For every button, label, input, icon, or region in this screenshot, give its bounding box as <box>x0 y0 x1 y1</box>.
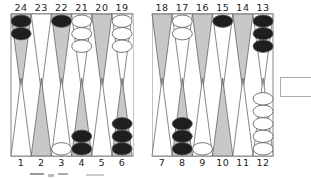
white-checker[interactable] <box>253 105 273 117</box>
black-checker[interactable] <box>253 28 273 40</box>
black-checker[interactable] <box>172 143 192 155</box>
black-checker[interactable] <box>172 118 192 130</box>
white-checker[interactable] <box>172 28 192 40</box>
status-text-blurred <box>28 170 128 179</box>
black-checker[interactable] <box>11 28 31 40</box>
point-label-3: 3 <box>52 158 72 168</box>
black-checker[interactable] <box>11 15 31 27</box>
black-checker[interactable] <box>253 15 273 27</box>
black-checker[interactable] <box>52 15 72 27</box>
doubling-cube-box[interactable] <box>280 77 311 97</box>
white-checker[interactable] <box>253 130 273 142</box>
white-checker[interactable] <box>193 143 213 155</box>
point-label-21: 21 <box>72 3 92 13</box>
point-label-19: 19 <box>112 3 132 13</box>
white-checker[interactable] <box>253 93 273 105</box>
point-label-12: 12 <box>253 158 273 168</box>
black-checker[interactable] <box>112 130 132 142</box>
black-checker[interactable] <box>213 15 233 27</box>
white-checker[interactable] <box>112 40 132 52</box>
white-checker[interactable] <box>52 143 72 155</box>
white-checker[interactable] <box>253 118 273 130</box>
point-label-9: 9 <box>193 158 213 168</box>
point-label-17: 17 <box>172 3 192 13</box>
black-checker[interactable] <box>112 143 132 155</box>
point-label-20: 20 <box>92 3 112 13</box>
white-checker[interactable] <box>112 15 132 27</box>
backgammon-board <box>0 0 311 179</box>
point-label-18: 18 <box>152 3 172 13</box>
point-label-1: 1 <box>11 158 31 168</box>
point-label-16: 16 <box>193 3 213 13</box>
point-label-7: 7 <box>152 158 172 168</box>
black-checker[interactable] <box>112 118 132 130</box>
white-checker[interactable] <box>253 143 273 155</box>
bar[interactable] <box>134 14 153 156</box>
point-label-23: 23 <box>31 3 51 13</box>
point-label-8: 8 <box>172 158 192 168</box>
black-checker[interactable] <box>72 130 92 142</box>
point-label-11: 11 <box>233 158 253 168</box>
point-label-14: 14 <box>233 3 253 13</box>
white-checker[interactable] <box>112 28 132 40</box>
point-label-13: 13 <box>253 3 273 13</box>
black-checker[interactable] <box>172 130 192 142</box>
point-label-2: 2 <box>31 158 51 168</box>
point-label-22: 22 <box>52 3 72 13</box>
point-label-4: 4 <box>72 158 92 168</box>
white-checker[interactable] <box>72 40 92 52</box>
board-frame <box>11 14 273 156</box>
white-checker[interactable] <box>172 15 192 27</box>
point-label-15: 15 <box>213 3 233 13</box>
white-checker[interactable] <box>72 28 92 40</box>
point-label-5: 5 <box>92 158 112 168</box>
point-label-24: 24 <box>11 3 31 13</box>
point-label-6: 6 <box>112 158 132 168</box>
white-checker[interactable] <box>72 15 92 27</box>
black-checker[interactable] <box>253 40 273 52</box>
black-checker[interactable] <box>72 143 92 155</box>
point-label-10: 10 <box>213 158 233 168</box>
